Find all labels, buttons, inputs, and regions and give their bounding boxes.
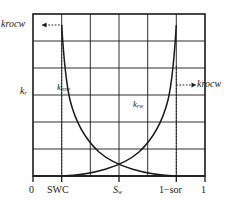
krow-label-sub: row [61, 86, 70, 92]
krw-label-sub: rw [137, 103, 143, 109]
xtick-label-swc: SWC [47, 184, 69, 195]
krocw-right-label: krocw [197, 78, 221, 89]
y-axis-label: kr [20, 85, 27, 96]
xtick-sw-sub: w [118, 189, 122, 195]
xtick-label-sw: Sw [113, 184, 122, 195]
krw-curve-label: krw [133, 99, 143, 109]
chart-canvas [0, 0, 230, 206]
relative-permeability-figure: kr krocw krocw krow krw 0 SWC Sw 1−sor 1 [0, 0, 230, 206]
xtick-label-0: 0 [29, 184, 34, 195]
y-axis-label-sub: r [24, 90, 26, 96]
krow-curve-label: krow [57, 82, 70, 92]
x-axis-ticks [33, 176, 205, 182]
xtick-label-one-minus-sor: 1−sor [159, 184, 182, 195]
krocw-left-label: krocw [1, 18, 25, 29]
xtick-label-1: 1 [201, 184, 206, 195]
